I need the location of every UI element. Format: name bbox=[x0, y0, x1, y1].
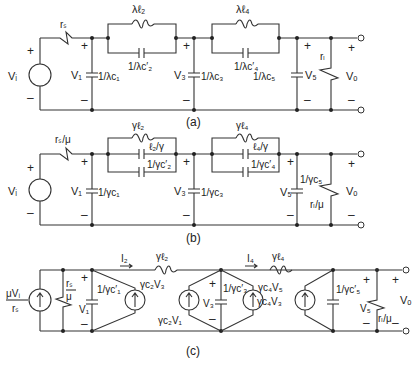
label-c-rs_den: μ bbox=[66, 291, 72, 302]
label-figure-minus: – bbox=[183, 93, 190, 107]
node-dot bbox=[295, 36, 299, 40]
label-c-g45: γc₄V₅ bbox=[258, 282, 283, 293]
label-b-l2c: ℓ₂/γ bbox=[149, 141, 164, 152]
label-b-l4c: ℓ₄/γ bbox=[253, 141, 268, 152]
label-c-g43: γc₄V₃ bbox=[257, 296, 282, 307]
label-figure-plus: + bbox=[81, 271, 88, 285]
label-figure-plus: + bbox=[348, 157, 355, 171]
label-figure-plus: + bbox=[287, 155, 294, 169]
label-figure-plus: + bbox=[363, 273, 370, 287]
label-figure-plus: + bbox=[27, 161, 34, 175]
wire bbox=[250, 293, 256, 307]
node-dot bbox=[329, 36, 333, 40]
output-terminal bbox=[358, 222, 364, 228]
label-figure-plus: + bbox=[81, 39, 88, 53]
label-c-c1: 1/γc′₁ bbox=[97, 284, 121, 295]
label-figure-minus: – bbox=[81, 93, 88, 107]
node-dot bbox=[192, 152, 196, 156]
wire bbox=[132, 293, 138, 307]
label-figure-plus: + bbox=[304, 39, 311, 53]
wire bbox=[215, 270, 227, 331]
label-b-l2: γℓ₂ bbox=[132, 120, 144, 131]
label-figure-plus: + bbox=[81, 155, 88, 169]
label-b-vo: Vₒ bbox=[346, 185, 358, 197]
label-b-rl: rₗ/μ bbox=[310, 199, 324, 210]
label-b-source: Vᵢ bbox=[8, 185, 17, 197]
wire bbox=[212, 138, 279, 154]
wire bbox=[120, 264, 132, 268]
label-figure-minus: – bbox=[81, 317, 88, 331]
node-dot bbox=[329, 152, 333, 156]
node-dot bbox=[295, 223, 299, 227]
label-figure-plus: + bbox=[209, 277, 216, 291]
wire bbox=[245, 264, 257, 268]
label-figure-plus: + bbox=[183, 155, 190, 169]
label-a-c3: 1/λc₃ bbox=[201, 71, 223, 82]
wire bbox=[212, 24, 279, 58]
label-c-v5: V₅ bbox=[360, 303, 371, 314]
label-a-l2: λℓ₂ bbox=[132, 3, 145, 15]
label-a-c2: 1/λc′₂ bbox=[128, 61, 152, 72]
label-c-c5: 1/γc′₅ bbox=[336, 284, 360, 295]
node-dot bbox=[106, 36, 110, 40]
wire bbox=[302, 293, 308, 307]
label-figure-minus: – bbox=[27, 206, 34, 220]
label-c-l2: γℓ₂ bbox=[156, 251, 168, 262]
output-terminal bbox=[403, 328, 409, 334]
node-dot bbox=[192, 223, 196, 227]
inductor-icon bbox=[236, 20, 258, 28]
label-b-rs: rₛ/μ bbox=[55, 134, 71, 145]
node-dot bbox=[192, 108, 196, 112]
wire bbox=[40, 148, 108, 160]
wire bbox=[212, 149, 279, 159]
wire bbox=[40, 32, 108, 44]
label-a-v1: V₁ bbox=[71, 69, 82, 81]
label-figure-minus: – bbox=[209, 312, 216, 326]
output-terminal bbox=[403, 267, 409, 273]
label-b-v1: V₁ bbox=[71, 185, 82, 197]
label-c-i4: I₄ bbox=[247, 253, 254, 264]
label-a-l4: λℓ₄ bbox=[236, 3, 250, 15]
node-dot bbox=[210, 152, 214, 156]
voltage-source-icon bbox=[29, 179, 51, 201]
output-terminal bbox=[358, 151, 364, 157]
node-dot bbox=[90, 108, 94, 112]
label-b-c4: 1/γc′₄ bbox=[251, 159, 275, 170]
label-figure-plus: + bbox=[27, 44, 34, 58]
label-figure-minus: – bbox=[287, 208, 294, 222]
circuit-b: + – Vᵢ rₛ/μ + – V₁ 1/γc₁ γℓ₂ ℓ₂/γ 1/γc′₂… bbox=[8, 120, 364, 245]
label-c-rl: rₗ/μ bbox=[378, 313, 392, 324]
wire bbox=[320, 154, 338, 225]
label-b-c5: 1/γc₅ bbox=[300, 174, 322, 185]
label-a-vo: Vₒ bbox=[346, 70, 358, 82]
wire bbox=[92, 270, 135, 331]
node-dot bbox=[375, 329, 379, 333]
node-dot bbox=[192, 36, 196, 40]
label-figure-minus: – bbox=[392, 316, 399, 330]
label-figure-plus: + bbox=[392, 273, 399, 287]
label-figure-plus: + bbox=[348, 41, 355, 55]
wire bbox=[37, 293, 43, 307]
circuit-c: μVᵢ rₛ rₛ μ + – V₁ 1/γc′₁ γc₂V₃ γc₂V₁ I₂… bbox=[6, 251, 412, 358]
output-terminal-plus bbox=[358, 35, 364, 41]
label-b-c1: 1/γc₁ bbox=[98, 187, 120, 198]
label-vi: Vᵢ bbox=[8, 70, 17, 82]
node-dot bbox=[295, 108, 299, 112]
label-figure-minus: – bbox=[304, 93, 311, 107]
wire bbox=[108, 24, 176, 58]
node-dot bbox=[90, 36, 94, 40]
label-c-v3: V₃ bbox=[203, 298, 214, 309]
node-dot bbox=[295, 152, 299, 156]
label-c-g23: γc₂V₃ bbox=[140, 279, 165, 290]
label-a-c5: 1/λc₅ bbox=[253, 71, 275, 82]
label-c-src_den: rₛ bbox=[12, 303, 19, 314]
node-dot bbox=[331, 329, 335, 333]
node-dot bbox=[106, 152, 110, 156]
label-c-g21: γc₂V₁ bbox=[158, 315, 183, 326]
wire bbox=[327, 270, 339, 331]
wire bbox=[186, 293, 192, 307]
wire bbox=[291, 38, 303, 110]
node-dot bbox=[90, 152, 94, 156]
wire bbox=[320, 38, 338, 110]
node-dot bbox=[329, 223, 333, 227]
